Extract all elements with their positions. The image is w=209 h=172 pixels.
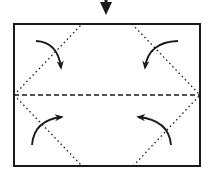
origami-diagram — [0, 0, 209, 172]
step-down-arrow-icon — [100, 0, 112, 15]
